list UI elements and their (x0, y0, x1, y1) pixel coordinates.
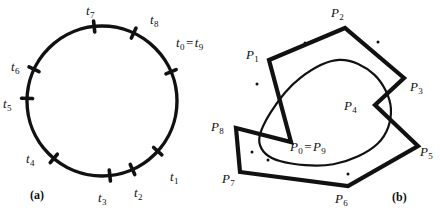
knot-label-t4: t4 (26, 152, 34, 168)
control-point-label-P3: P3 (410, 80, 423, 96)
knot-tick-t2 (130, 164, 134, 174)
control-point-label-P6: P6 (335, 192, 348, 208)
caption-panel-a: (a) (30, 188, 44, 203)
caption-panel-b: (b) (392, 190, 407, 205)
control-point-label-P2: P2 (331, 6, 344, 22)
knot-label-t2: t2 (134, 186, 142, 202)
control-point-label-P4: P4 (344, 99, 357, 115)
figure-root: t1t2t3t4t5t6t7t8t0=t9P1P2P3P4P5P6P7P8P0=… (0, 0, 440, 216)
curve-knot-dot-4 (251, 151, 254, 154)
knot-label-t7: t7 (86, 4, 94, 20)
curve-knot-dot-1 (377, 41, 380, 44)
knot-tick-t3 (109, 170, 110, 181)
control-point-label-P1: P1 (246, 48, 259, 64)
knot-label-t5: t5 (3, 97, 11, 113)
panel-a-circle-group (22, 21, 177, 181)
curve-knot-dot-0 (304, 42, 307, 45)
control-point-label-P8: P8 (211, 120, 224, 136)
control-point-label-P7: P7 (222, 172, 235, 188)
knot-label-t8: t8 (150, 13, 158, 29)
knot-label-t3: t3 (98, 191, 106, 207)
control-point-label-P5: P5 (420, 145, 433, 161)
panel-b-polygon-group (236, 28, 418, 186)
knot-label-t1: t1 (170, 170, 178, 186)
curve-knot-dot-5 (347, 173, 350, 176)
knot-label-t6: t6 (11, 60, 19, 76)
knot-label-t0-eq-t9: t0=t9 (176, 36, 203, 52)
knot-tick-t7 (94, 21, 95, 32)
knot-tick-t8 (131, 28, 136, 38)
control-point-label-P0-eq-P9: P0=P9 (290, 140, 326, 156)
knot-tick-t0 (166, 70, 176, 74)
knot-circle (27, 26, 177, 176)
knot-tick-t6 (29, 67, 39, 72)
curve-knot-dot-2 (256, 83, 259, 86)
figure-canvas (0, 0, 440, 216)
curve-knot-dot-3 (267, 159, 270, 162)
